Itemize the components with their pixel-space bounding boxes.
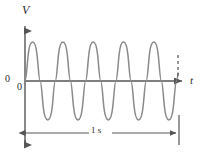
y-axis-zero-label: 0 xyxy=(5,74,10,84)
sine-voltage-waveform-figure: V t 0 0 1 s xyxy=(0,0,200,156)
y-axis-label: V xyxy=(22,4,29,16)
origin-tick-label: 0 xyxy=(17,82,22,92)
duration-label: 1 s xyxy=(89,126,103,135)
x-axis-label: t xyxy=(190,75,193,86)
